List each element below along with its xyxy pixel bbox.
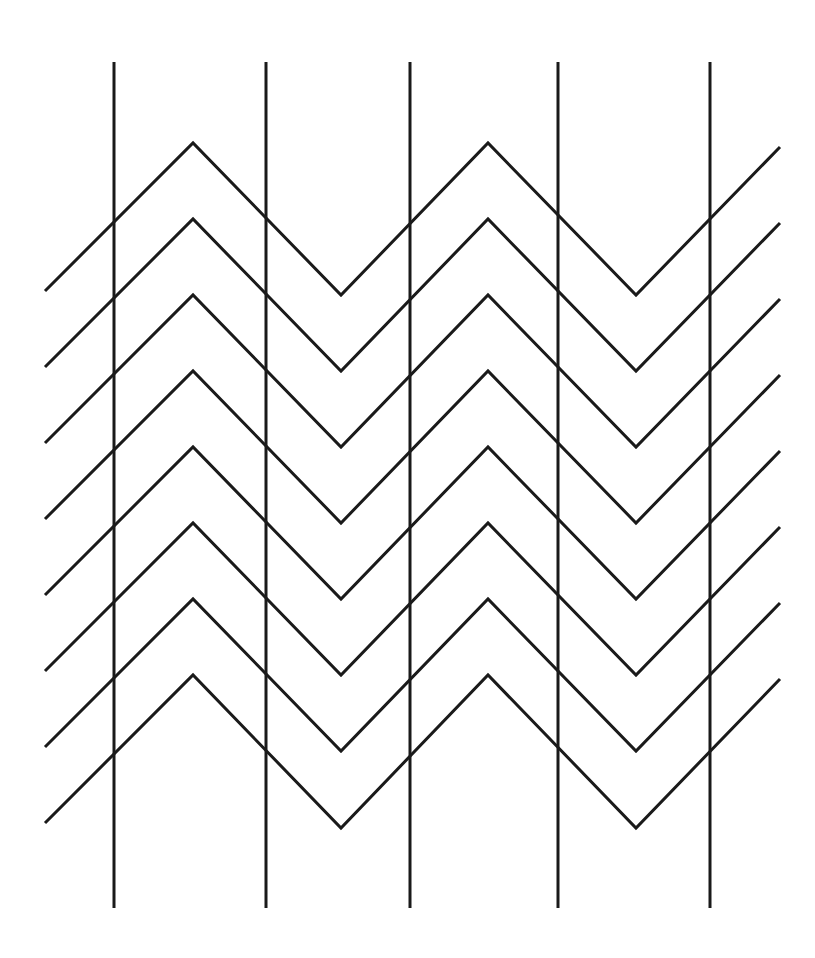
pattern-stage — [0, 0, 815, 958]
zigzag-pattern-figure — [0, 0, 815, 958]
figure-background — [0, 0, 815, 958]
